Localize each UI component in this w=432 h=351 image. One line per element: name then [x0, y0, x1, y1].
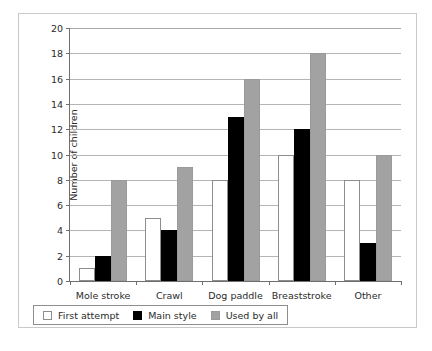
bar[interactable] [376, 155, 392, 282]
y-tick-label-4: 4 [57, 225, 63, 236]
plot-area: Number of children 02468101214161820 Mol… [69, 28, 401, 282]
x-tick-label: Breaststroke [272, 290, 332, 301]
bar-group: Crawl [136, 28, 202, 281]
x-tick [335, 281, 336, 285]
y-tick-label-10: 10 [51, 149, 63, 160]
legend-item[interactable]: Main style [133, 310, 196, 321]
legend-label: Main style [148, 310, 196, 321]
bar[interactable] [145, 218, 161, 281]
x-tick [202, 281, 203, 285]
x-tick-label: Dog paddle [208, 290, 263, 301]
x-tick [269, 281, 270, 285]
y-tick-label-18: 18 [51, 48, 63, 59]
y-tick-label-6: 6 [57, 200, 63, 211]
bar[interactable] [212, 180, 228, 281]
bar-groups: Mole strokeCrawlDog paddleBreaststrokeOt… [70, 28, 401, 281]
bar[interactable] [95, 256, 111, 281]
bar[interactable] [161, 230, 177, 281]
legend-swatch-icon [43, 311, 52, 320]
bar[interactable] [177, 167, 193, 281]
y-tick-label-20: 20 [51, 23, 63, 34]
y-tick-label-0: 0 [57, 276, 63, 287]
x-tick-label: Mole stroke [76, 290, 131, 301]
legend-item[interactable]: First attempt [43, 310, 119, 321]
y-tick-label-12: 12 [51, 124, 63, 135]
bar[interactable] [79, 268, 95, 281]
x-tick-label: Crawl [156, 290, 183, 301]
legend-label: Used by all [226, 310, 279, 321]
x-tick-label: Other [354, 290, 381, 301]
x-tick [401, 281, 402, 285]
bar-group: Dog paddle [202, 28, 268, 281]
bar[interactable] [310, 53, 326, 281]
y-tick-label-2: 2 [57, 250, 63, 261]
legend-swatch-icon [133, 311, 142, 320]
x-tick [136, 281, 137, 285]
bar[interactable] [294, 129, 310, 281]
y-tick-label-8: 8 [57, 174, 63, 185]
bar[interactable] [228, 117, 244, 281]
chart-legend: First attemptMain styleUsed by all [33, 305, 288, 325]
bar[interactable] [344, 180, 360, 281]
x-tick [70, 281, 71, 285]
y-tick-label-16: 16 [51, 73, 63, 84]
bar[interactable] [360, 243, 376, 281]
bar[interactable] [278, 155, 294, 282]
legend-swatch-icon [211, 311, 220, 320]
chart-figure: Number of children 02468101214161820 Mol… [18, 13, 417, 328]
bar[interactable] [111, 180, 127, 281]
bar-group: Mole stroke [70, 28, 136, 281]
bar-group: Other [335, 28, 401, 281]
legend-item[interactable]: Used by all [211, 310, 279, 321]
bar[interactable] [244, 79, 260, 281]
legend-label: First attempt [58, 310, 119, 321]
y-tick-label-14: 14 [51, 98, 63, 109]
bar-group: Breaststroke [269, 28, 335, 281]
